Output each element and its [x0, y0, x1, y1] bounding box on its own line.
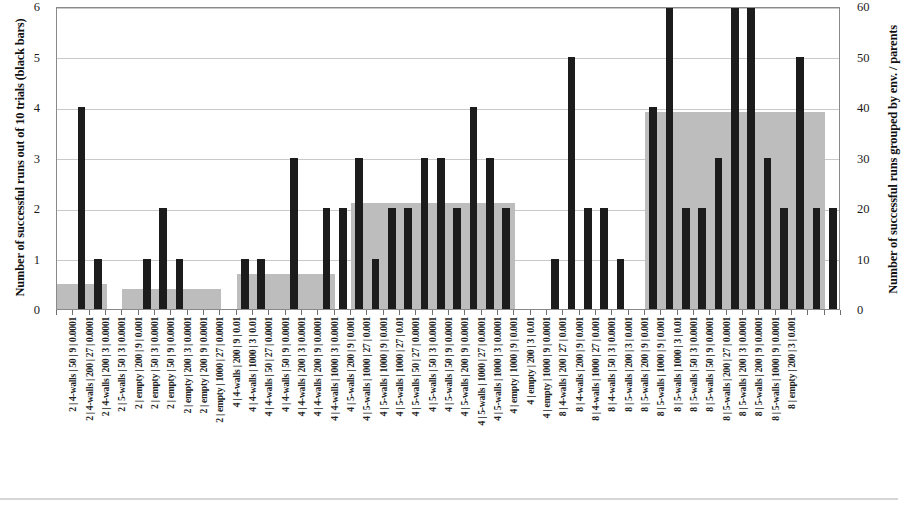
- left-tick-label: 5: [34, 51, 40, 64]
- x-category-label: 4 | 4-walls | 1000 | 3 | 0.01: [248, 317, 258, 412]
- x-tick-mark: [660, 310, 661, 315]
- right-axis-tick-labels: 0102030405060: [855, 0, 881, 310]
- right-tick-label: 60: [857, 1, 870, 14]
- x-category-label: 2 | 4-walls | 200 | 3 | 0.0001: [101, 317, 111, 416]
- x-category-label: 4 | 5-walls | 1000 | 27 | 0.01: [395, 317, 405, 416]
- black-bar: [176, 259, 183, 310]
- x-tick-mark: [383, 310, 384, 315]
- x-category-label: 8 | 5-walls | 200 | 3 | 0.0001: [738, 317, 748, 416]
- x-category-label: 4 | 4-walls | 1000 | 3 | 0.0001: [330, 317, 340, 421]
- black-bar: [78, 107, 85, 309]
- x-tick-mark: [121, 310, 122, 315]
- x-category-label: 4 | 4-walls | 50 | 27 | 0.0001: [264, 317, 274, 416]
- x-tick-mark: [252, 310, 253, 315]
- x-tick-mark: [840, 310, 841, 315]
- x-tick-mark: [138, 310, 139, 315]
- x-axis-category-labels: 2 | 4-walls | 50 | 9 | 0.00012 | 4-walls…: [56, 317, 840, 497]
- x-tick-mark: [268, 310, 269, 315]
- x-tick-mark: [72, 310, 73, 315]
- x-tick-mark: [611, 310, 612, 315]
- black-bar: [764, 158, 771, 310]
- right-axis-title: Number of successful runs grouped by env…: [886, 0, 901, 320]
- x-category-label: 4 | 5-walls | 200 | 9 | 0.001: [346, 317, 356, 412]
- x-category-label: 4 | 4-walls | 200 | 3 | 0.0001: [297, 317, 307, 416]
- x-tick-mark: [399, 310, 400, 315]
- x-tick-mark: [709, 310, 710, 315]
- right-tick-label: 10: [857, 253, 870, 266]
- x-tick-mark: [693, 310, 694, 315]
- x-category-label: 4 | 5-walls | 1000 | 27 | 0.0001: [477, 317, 487, 425]
- black-bar: [453, 208, 460, 309]
- black-bar: [257, 259, 264, 310]
- x-tick-mark: [546, 310, 547, 315]
- x-tick-mark: [758, 310, 759, 315]
- black-bar: [551, 259, 558, 310]
- black-bar: [241, 259, 248, 310]
- black-bar: [698, 208, 705, 309]
- black-bar: [372, 259, 379, 310]
- black-bar: [829, 208, 836, 309]
- x-category-label: 4 | 5-walls | 1000 | 3 | 0.0001: [493, 317, 503, 421]
- x-tick-mark: [464, 310, 465, 315]
- x-category-label: 8 | 4-walls | 200 | 27 | 0.001: [558, 317, 568, 416]
- x-tick-mark: [677, 310, 678, 315]
- footer-divider: [0, 498, 898, 500]
- black-bar: [502, 208, 509, 309]
- x-category-label: 4 | empty | 1000 | 9 | 0.001: [509, 317, 519, 414]
- black-bar: [780, 208, 787, 309]
- black-bar: [666, 7, 673, 309]
- x-tick-mark: [187, 310, 188, 315]
- black-bar: [584, 208, 591, 309]
- x-tick-mark: [203, 310, 204, 315]
- x-category-label: 8 | 4-walls | 1000 | 27 | 0.001: [591, 317, 601, 421]
- x-tick-mark: [481, 310, 482, 315]
- x-tick-mark: [579, 310, 580, 315]
- x-tick-mark: [89, 310, 90, 315]
- x-tick-mark: [726, 310, 727, 315]
- left-tick-label: 3: [34, 152, 40, 165]
- black-bar: [470, 107, 477, 309]
- x-tick-mark: [513, 310, 514, 315]
- x-category-label: 4 | 5-walls | 50 | 3 | 0.0001: [428, 317, 438, 412]
- x-tick-mark: [497, 310, 498, 315]
- right-tick-label: 20: [857, 203, 870, 216]
- black-bar: [731, 7, 738, 309]
- black-bar: [421, 158, 428, 310]
- x-tick-mark: [791, 310, 792, 315]
- left-tick-label: 4: [34, 102, 40, 115]
- black-bar: [404, 208, 411, 309]
- x-category-label: 2 | empty | 50 | 3 | 0.0001: [150, 317, 160, 409]
- black-bar: [682, 208, 689, 309]
- black-bar: [290, 158, 297, 310]
- right-tick-label: 40: [857, 102, 870, 115]
- x-category-label: 4 | 5-walls | 1000 | 27 | 0.001: [362, 317, 372, 421]
- x-tick-mark: [448, 310, 449, 315]
- x-tick-mark: [105, 310, 106, 315]
- x-tick-mark: [154, 310, 155, 315]
- black-bar: [323, 208, 330, 309]
- x-category-label: 2 | 4-walls | 200 | 27 | 0.0001: [85, 317, 95, 421]
- x-category-label: 2 | empty | 200 | 9 | 0.0001: [199, 317, 209, 414]
- x-category-label: 8 | 5-walls | 200 | 3 | 0.001: [624, 317, 634, 412]
- x-tick-mark: [366, 310, 367, 315]
- x-tick-mark: [628, 310, 629, 315]
- x-tick-mark: [644, 310, 645, 315]
- x-category-label: 4 | 5-walls | 50 | 27 | 0.0001: [411, 317, 421, 416]
- x-tick-mark: [432, 310, 433, 315]
- black-bar: [143, 259, 150, 310]
- x-tick-mark: [775, 310, 776, 315]
- black-bar: [600, 208, 607, 309]
- x-category-label: 4 | 4-walls | 50 | 9 | 0.0001: [281, 317, 291, 412]
- x-category-label: 2 | empty | 200 | 9 | 0.001: [134, 317, 144, 409]
- left-axis-tick-labels: 0123456: [14, 0, 40, 310]
- x-tick-mark: [56, 310, 57, 315]
- x-category-label: 8 | empty | 200 | 3 | 0.001: [787, 317, 797, 409]
- x-category-label: 4 | 5-walls | 1000 | 9 | 0.001: [379, 317, 389, 416]
- x-category-label: 4 | empty | 200 | 3 | 0.01: [526, 317, 536, 405]
- black-bar: [813, 208, 820, 309]
- x-category-label: 8 | 5-walls | 200 | 9 | 0.001: [640, 317, 650, 412]
- x-category-label: 8 | 5-walls | 200 | 9 | 0.0001: [754, 317, 764, 416]
- x-category-label: 4 | 4-walls | 200 | 9 | 0.01: [232, 317, 242, 407]
- black-bar: [796, 57, 803, 310]
